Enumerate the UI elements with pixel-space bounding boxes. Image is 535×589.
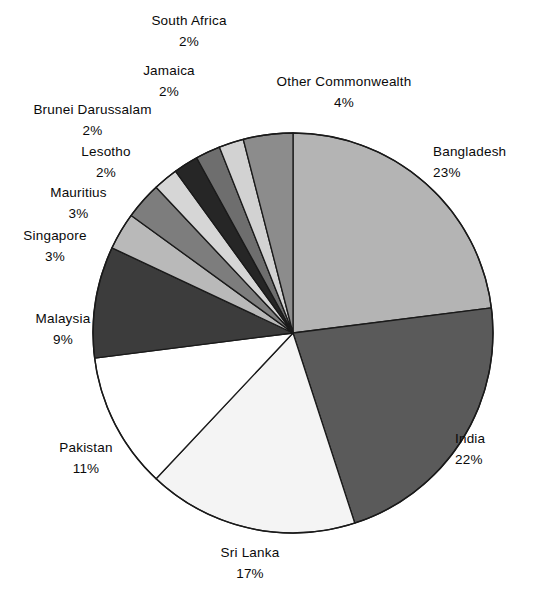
pie-label-malaysia: Malaysia 9% — [17, 308, 109, 351]
pie-label-india: India 22% — [455, 428, 525, 471]
pie-label-south-africa: South Africa 2% — [113, 10, 265, 53]
pie-label-value: 23% — [433, 162, 533, 183]
pie-label-value: 3% — [7, 246, 103, 267]
pie-chart-figure: South Africa 2% Jamaica 2% Brunei Daruss… — [0, 0, 535, 589]
pie-label-value: 4% — [259, 92, 429, 113]
pie-label-sri-lanka: Sri Lanka 17% — [192, 542, 308, 585]
pie-label-name: Pakistan — [44, 437, 128, 458]
pie-label-pakistan: Pakistan 11% — [44, 437, 128, 480]
pie-label-lesotho: Lesotho 2% — [62, 141, 150, 184]
pie-label-value: 2% — [20, 120, 165, 141]
pie-slice-group — [93, 133, 493, 533]
pie-label-singapore: Singapore 3% — [7, 225, 103, 268]
pie-label-name: Malaysia — [17, 308, 109, 329]
pie-label-name: Sri Lanka — [192, 542, 308, 563]
pie-label-name: Singapore — [7, 225, 103, 246]
pie-label-value: 3% — [31, 203, 126, 224]
pie-label-brunei-darussalam: Brunei Darussalam 2% — [20, 99, 165, 142]
pie-label-value: 2% — [62, 162, 150, 183]
pie-label-value: 2% — [113, 31, 265, 52]
pie-label-other-commonwealth: Other Commonwealth 4% — [259, 71, 429, 114]
pie-label-value: 9% — [17, 329, 109, 350]
pie-label-name: Brunei Darussalam — [20, 99, 165, 120]
pie-label-bangladesh: Bangladesh 23% — [433, 141, 533, 184]
pie-label-name: Jamaica — [110, 60, 228, 81]
pie-label-value: 22% — [455, 449, 525, 470]
pie-label-name: Mauritius — [31, 182, 126, 203]
pie-label-name: Bangladesh — [433, 141, 533, 162]
pie-label-mauritius: Mauritius 3% — [31, 182, 126, 225]
pie-label-name: Other Commonwealth — [259, 71, 429, 92]
pie-label-name: Lesotho — [62, 141, 150, 162]
pie-label-jamaica: Jamaica 2% — [110, 60, 228, 103]
pie-label-value: 11% — [44, 458, 128, 479]
pie-label-value: 17% — [192, 563, 308, 584]
pie-label-name: India — [455, 428, 525, 449]
pie-label-name: South Africa — [113, 10, 265, 31]
